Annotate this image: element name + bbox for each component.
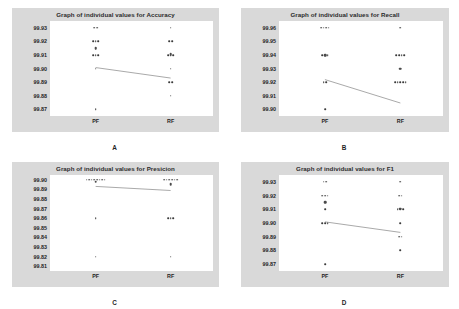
y-axis-tick-label: 99.93 [263,66,277,72]
y-axis-tick-label: 99.92 [263,193,277,199]
y-axis-tick-label: 99.93 [263,179,277,185]
y-axis-tick-label: 99.87 [34,206,48,212]
mean-marker [324,201,327,204]
panel-background: Graph of individual values for Presicion… [12,162,219,287]
mean-connector-line [50,21,213,184]
mean-connector-line [50,175,213,309]
mean-marker [399,207,402,210]
y-axis-tick-label: 99.90 [263,106,277,112]
mean-marker [324,54,327,57]
plot-area: 99.9099.8999.8899.8799.8699.8599.8499.83… [50,175,213,271]
y-axis-tick-label: 99.85 [34,225,48,231]
mean-marker [399,67,402,70]
chart-panel-c: Graph of individual values for Presicion… [0,154,229,309]
y-axis-tick-label: 99.89 [34,186,48,192]
y-axis-tick-label: 99.91 [34,52,48,58]
chart-title: Graph of individual values for Accuracy [12,11,219,18]
panel-background: Graph of individual values for F199.9399… [241,162,449,287]
y-axis-tick-label: 99.89 [263,234,277,240]
mean-connector-line [279,21,443,185]
y-axis-tick-label: 99.92 [34,38,48,44]
y-axis-tick-label: 99.88 [34,196,48,202]
plot-area: 99.9699.9599.9499.9399.9299.9199.90PFRF [279,21,443,116]
chart-panel-b: Graph of individual values for Recall99.… [229,0,459,154]
y-axis-tick-label: 99.82 [34,254,48,260]
plot-area: 99.9399.9299.9199.9099.8999.8899.87PFRF [50,21,213,116]
mean-marker [169,183,172,186]
y-axis-tick-label: 99.87 [34,106,48,112]
mean-marker [94,180,97,183]
y-axis-tick-label: 99.93 [34,25,48,31]
y-axis-tick-label: 99.90 [34,177,48,183]
mean-connector-line [279,175,443,309]
y-axis-tick-label: 99.81 [34,263,48,269]
panel-background: Graph of individual values for Recall99.… [241,8,449,132]
plot-area: 99.9399.9299.9199.9099.8999.8899.87PFRF [279,175,443,271]
y-axis-tick-label: 99.87 [263,261,277,267]
y-axis-tick-label: 99.89 [34,79,48,85]
y-axis-tick-label: 99.96 [263,25,277,31]
figure-grid: Graph of individual values for Accuracy9… [0,0,459,309]
y-axis-tick-label: 99.92 [263,79,277,85]
mean-marker [94,47,97,50]
y-axis-tick-label: 99.90 [34,66,48,72]
y-axis-tick-label: 99.90 [263,220,277,226]
y-axis-tick-label: 99.84 [34,234,48,240]
y-axis-tick-label: 99.86 [34,215,48,221]
chart-title: Graph of individual values for Recall [241,11,449,18]
y-axis-tick-label: 99.88 [263,247,277,253]
y-axis-tick-label: 99.91 [263,206,277,212]
mean-marker [169,53,172,56]
y-axis-tick-label: 99.83 [34,244,48,250]
y-axis-tick-label: 99.88 [34,93,48,99]
chart-panel-d: Graph of individual values for F199.9399… [229,154,459,309]
panel-background: Graph of individual values for Accuracy9… [12,8,219,132]
y-axis-tick-label: 99.91 [263,93,277,99]
y-axis-tick-label: 99.95 [263,38,277,44]
y-axis-tick-label: 99.94 [263,52,277,58]
chart-panel-a: Graph of individual values for Accuracy9… [0,0,229,154]
